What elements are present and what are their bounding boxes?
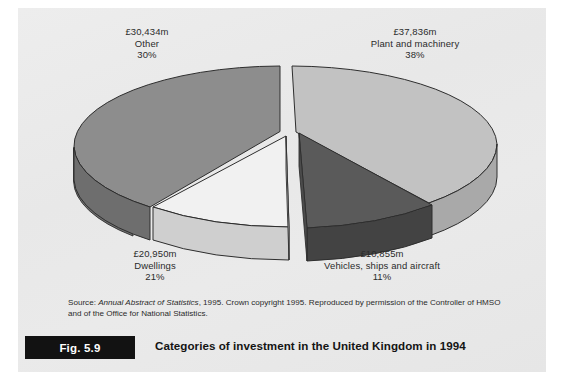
slice-name-plant: Plant and machinery xyxy=(330,38,500,50)
slice-pct-dwellings: 21% xyxy=(80,271,230,283)
figure-number-badge: Fig. 5.9 xyxy=(25,336,135,359)
slice-value-plant: £37,836m xyxy=(330,26,500,38)
slice-name-other: Other xyxy=(72,38,222,50)
slice-name-vehicles: Vehicles, ships and aircraft xyxy=(282,260,482,272)
figure-container: £30,434m Other 30% £37,836m Plant and ma… xyxy=(0,0,563,386)
source-publication-title: Annual Abstract of Statistics xyxy=(98,298,198,307)
slice-pct-plant: 38% xyxy=(330,49,500,61)
slice-label-plant: £37,836m Plant and machinery 38% xyxy=(330,26,500,61)
slice-label-vehicles: £10,855m Vehicles, ships and aircraft 11… xyxy=(282,248,482,283)
slice-value-other: £30,434m xyxy=(72,26,222,38)
slice-pct-vehicles: 11% xyxy=(282,271,482,283)
slice-name-dwellings: Dwellings xyxy=(80,260,230,272)
slice-pct-other: 30% xyxy=(72,49,222,61)
caption-bar: Fig. 5.9 Categories of investment in the… xyxy=(25,336,525,360)
slice-value-vehicles: £10,855m xyxy=(282,248,482,260)
source-prefix: Source: xyxy=(68,298,98,307)
source-note: Source: Annual Abstract of Statistics, 1… xyxy=(68,297,508,319)
slice-value-dwellings: £20,950m xyxy=(80,248,230,260)
slice-label-dwellings: £20,950m Dwellings 21% xyxy=(80,248,230,283)
slice-label-other: £30,434m Other 30% xyxy=(72,26,222,61)
figure-caption-title: Categories of investment in the United K… xyxy=(155,339,466,352)
